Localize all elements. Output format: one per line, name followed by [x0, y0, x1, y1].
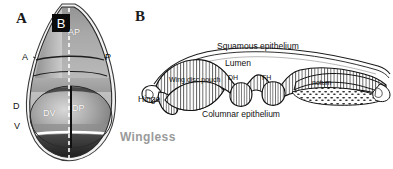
label-notum: notum — [312, 79, 331, 86]
label-hinge: Hinge — [138, 95, 160, 104]
label-columnar-epithelium: Columnar epithelium — [202, 110, 280, 119]
compartment-label-dp: DP — [72, 104, 85, 113]
label-fh: FH — [262, 74, 271, 81]
label-wing-disc-pouch: Wing disc pouch — [169, 76, 220, 83]
epithelium-cross-section — [132, 0, 393, 169]
panel-b-inset-label: B — [57, 17, 66, 30]
compartment-label-dv: DV — [43, 109, 56, 118]
label-lumen: Lumen — [225, 59, 251, 68]
fh-fold — [262, 82, 285, 106]
panel-b: B — [132, 0, 393, 169]
dh-fold — [230, 83, 252, 107]
axis-label-ventral: V — [14, 122, 20, 131]
label-squamous-epithelium: Squamous epithelium — [217, 42, 299, 51]
compartment-label-ap: AP — [68, 28, 80, 37]
axis-label-dorsal: D — [13, 102, 20, 111]
panel-a: A — [0, 0, 132, 169]
axis-label-posterior: P — [105, 53, 111, 62]
axis-label-anterior: A — [22, 53, 28, 62]
figure-root: A — [0, 0, 393, 169]
label-dh: DH — [228, 74, 238, 81]
